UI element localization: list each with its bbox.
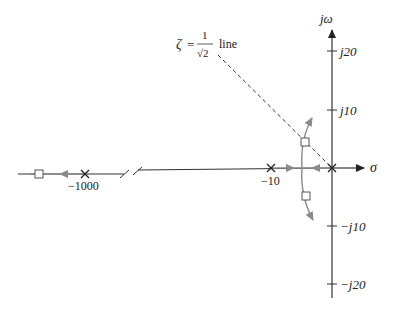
- zeta-symbol: ζ: [176, 37, 183, 52]
- real-axis-label: σ: [370, 160, 378, 175]
- damping-ratio-line: [218, 55, 332, 168]
- root-locus-diagram: jω j20 j10 −j10 −j20 σ ζ = 1 √2 line −10: [0, 0, 394, 321]
- damping-line-label: ζ = 1 √2 line: [176, 29, 237, 59]
- fraction-numerator: 1: [202, 29, 208, 41]
- tick-label-j20: j20: [338, 44, 357, 59]
- tick-label-j10: j10: [338, 103, 357, 118]
- closed-loop-pole-real: [35, 170, 43, 178]
- tick-label-neg-j20: −j20: [340, 277, 366, 292]
- closed-loop-pole-upper: [301, 138, 309, 146]
- imag-axis-label: jω: [318, 11, 333, 26]
- closed-loop-pole-lower: [302, 192, 310, 200]
- line-word: line: [219, 37, 237, 51]
- pole-label-minus-1000: −1000: [68, 179, 99, 193]
- pole-label-minus-10: −10: [261, 174, 280, 188]
- equals-sign: =: [187, 37, 194, 52]
- complex-locus-branches: [302, 118, 313, 220]
- fraction-denominator: √2: [197, 47, 209, 59]
- tick-label-neg-j10: −j10: [340, 219, 366, 234]
- real-axis-locus: [30, 164, 332, 178]
